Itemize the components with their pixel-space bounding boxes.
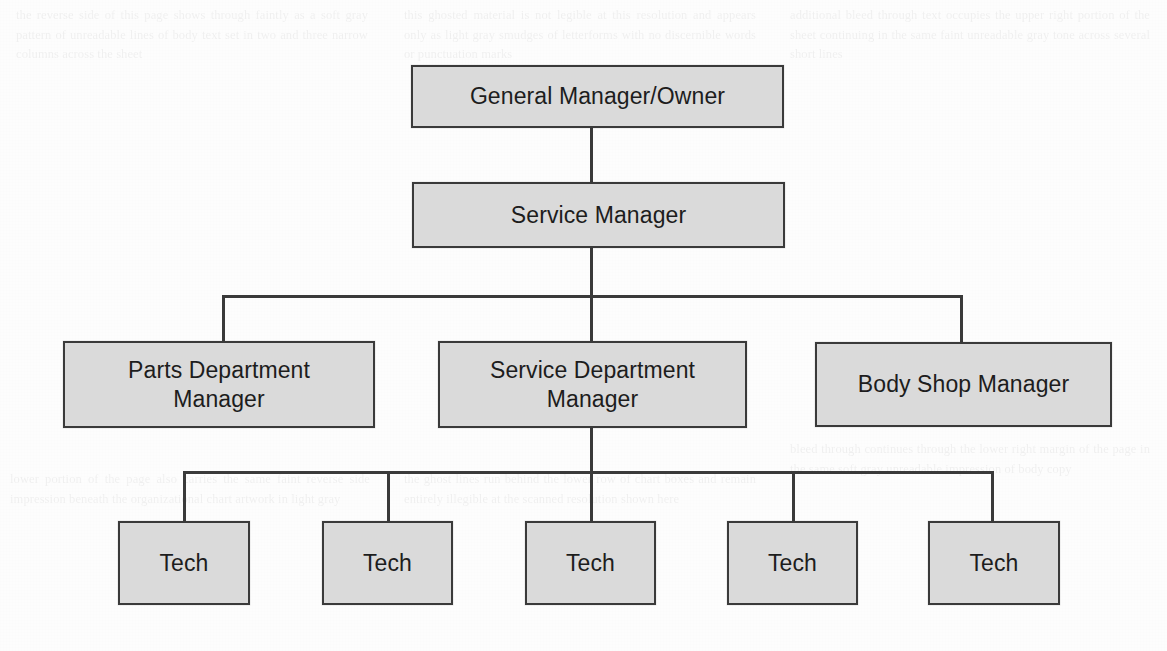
scanned-page: the reverse side of this page shows thro… [0, 0, 1167, 651]
node-tech-2[interactable]: Tech [322, 521, 453, 605]
node-tech-5-label: Tech [964, 549, 1025, 578]
connector-bus-to-parts-manager [222, 295, 225, 341]
node-tech-4-label: Tech [762, 549, 823, 578]
node-tech-1-label: Tech [154, 549, 215, 578]
node-service-manager-label: Service Manager [505, 201, 692, 230]
node-tech-1[interactable]: Tech [118, 521, 250, 605]
node-tech-2-label: Tech [357, 549, 418, 578]
node-tech-5[interactable]: Tech [928, 521, 1060, 605]
connector-bus-to-service-dept-manager [590, 295, 593, 341]
connector-service-manager-stem [590, 248, 593, 296]
connector-bus-to-tech-1 [183, 471, 186, 521]
connector-tech-bus [183, 471, 994, 474]
node-tech-3-label: Tech [560, 549, 621, 578]
node-general-manager-owner[interactable]: General Manager/Owner [411, 65, 784, 128]
node-service-manager[interactable]: Service Manager [412, 182, 785, 248]
node-parts-department-manager[interactable]: Parts Department Manager [63, 341, 375, 428]
connector-service-dept-manager-stem [590, 428, 593, 473]
node-parts-department-manager-label: Parts Department Manager [122, 356, 316, 414]
connector-gm-to-service-manager [590, 128, 593, 182]
connector-bus-to-tech-2 [387, 471, 390, 521]
node-tech-3[interactable]: Tech [525, 521, 656, 605]
node-body-shop-manager-label: Body Shop Manager [852, 370, 1075, 399]
node-service-department-manager-label: Service Department Manager [484, 356, 701, 414]
connector-bus-to-tech-5 [991, 471, 994, 521]
node-body-shop-manager[interactable]: Body Shop Manager [815, 342, 1112, 427]
connector-bus-to-tech-3 [590, 471, 593, 521]
node-tech-4[interactable]: Tech [727, 521, 858, 605]
connector-bus-to-body-shop-manager [960, 295, 963, 342]
node-service-department-manager[interactable]: Service Department Manager [438, 341, 747, 428]
node-general-manager-owner-label: General Manager/Owner [464, 82, 731, 111]
org-chart: General Manager/Owner Service Manager Pa… [0, 0, 1167, 651]
connector-bus-to-tech-4 [792, 471, 795, 521]
